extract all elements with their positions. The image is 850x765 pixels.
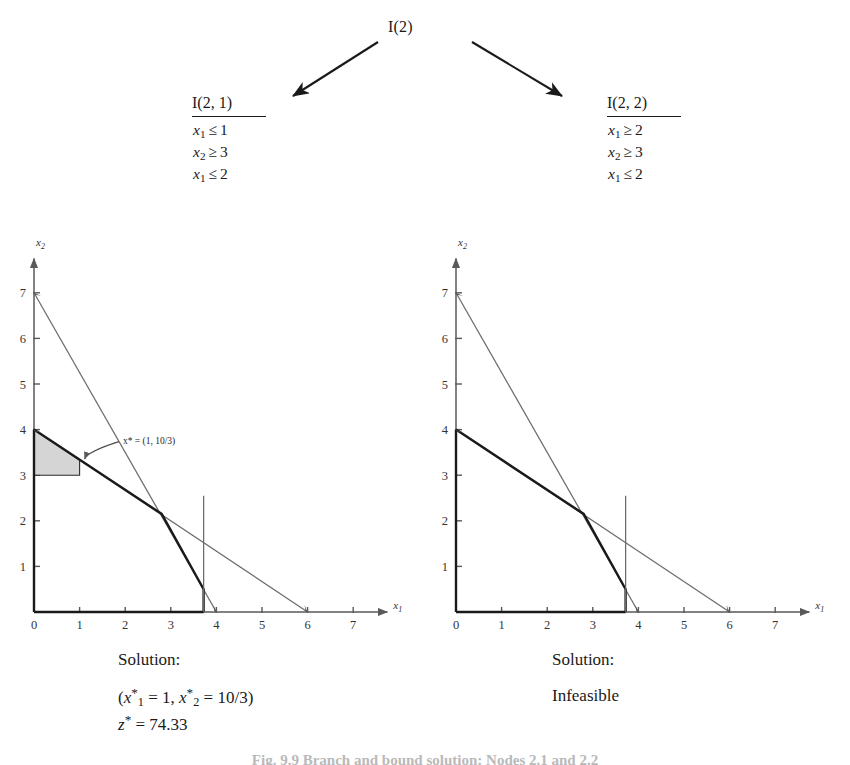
x-axis-label-sub: 1 (820, 605, 824, 614)
constraint-var: x (193, 121, 200, 138)
tree-node-left: I(2, 1) x1≤1 x2≥3 x1≤2 (192, 92, 312, 186)
y-tick-label: 2 (442, 514, 448, 528)
y-tick-label: 1 (442, 560, 448, 574)
tree-node-left-constraint-1: x1≤1 (192, 120, 312, 142)
x-tick-label: 6 (726, 618, 732, 632)
x-axis-label: x1 (814, 599, 824, 614)
constraint-value: 3 (220, 143, 228, 160)
tree-node-right: I(2, 2) x1≥2 x2≥3 x1≤2 (607, 92, 727, 186)
sol-z-var: z (118, 715, 125, 734)
tree-node-right-title: I(2, 2) (607, 92, 647, 115)
x-tick-label: 7 (350, 618, 356, 632)
x-tick-label: 6 (304, 618, 310, 632)
constraint-rel: ≥ (620, 143, 635, 160)
y-tick-label: 6 (20, 332, 26, 346)
optimum-label-leader (85, 442, 119, 459)
tree-node-left-title: I(2, 1) (192, 92, 232, 115)
tree-node-root: I(2) (388, 18, 413, 36)
y-axis-label-sub: 2 (463, 242, 467, 251)
constraint-rel: ≤ (205, 165, 220, 182)
tree-node-right-constraint-2: x2≥3 (607, 142, 727, 164)
solution-left-x2: 10/3 (217, 688, 247, 707)
solution-left: Solution: (x*1 = 1, x*2 = 10/3) z* = 74.… (118, 648, 253, 737)
chart-right: 012345671234567x2x1 (422, 228, 847, 636)
x-tick-label: 2 (122, 618, 128, 632)
sol-x2-sub: 2 (193, 695, 199, 709)
solution-right-label: Solution: (552, 648, 619, 672)
tree-node-left-rule (192, 116, 266, 117)
tree-edge-left (293, 42, 378, 96)
constraint-rel: ≥ (620, 121, 635, 138)
sol-x1-sub: 1 (138, 695, 144, 709)
y-tick-label: 4 (442, 423, 449, 437)
x-tick-label: 5 (259, 618, 265, 632)
y-tick-label: 7 (20, 286, 26, 300)
y-tick-label: 7 (442, 286, 448, 300)
x-tick-label: 4 (213, 618, 220, 632)
sol-x-var: x (179, 688, 187, 707)
constraint-rel: ≤ (620, 165, 635, 182)
x-tick-label: 0 (453, 618, 459, 632)
y-tick-label: 4 (20, 423, 27, 437)
tree-node-right-constraint-3: x1≤2 (607, 164, 727, 186)
tree-node-right-constraint-1: x1≥2 (607, 120, 727, 142)
constraint-var: x (608, 121, 615, 138)
solution-left-z: 74.33 (149, 715, 187, 734)
y-tick-label: 1 (20, 560, 26, 574)
y-axis-label: x2 (35, 236, 45, 251)
figure-page: I(2) I(2, 1) x1≤1 x2≥3 x1≤2 I(2, 2) x1≥2… (0, 0, 850, 765)
chart-right-canvas: 012345671234567x2x1 (422, 228, 847, 636)
x-tick-label: 5 (681, 618, 687, 632)
solution-left-line-1: (x*1 = 1, x*2 = 10/3) (118, 684, 253, 711)
y-axis-label-sub: 2 (41, 242, 45, 251)
constraint-rel: ≥ (205, 143, 220, 160)
x-tick-label: 2 (544, 618, 550, 632)
solution-right-status: Infeasible (552, 684, 619, 708)
constraint-var: x (608, 143, 615, 160)
x-tick-label: 1 (76, 618, 82, 632)
x-tick-label: 4 (635, 618, 642, 632)
tree-node-left-constraint-3: x1≤2 (192, 164, 312, 186)
y-axis-label: x2 (457, 236, 467, 251)
tree-node-left-constraint-2: x2≥3 (192, 142, 312, 164)
y-tick-label: 5 (20, 378, 26, 392)
y-tick-label: 5 (442, 378, 448, 392)
constraint-value: 2 (635, 121, 643, 138)
x-tick-label: 3 (590, 618, 596, 632)
x-tick-label: 3 (168, 618, 174, 632)
figure-caption: Fig. 9.9 Branch and bound solution: Node… (0, 752, 850, 765)
constraint-value: 2 (220, 165, 228, 182)
optimum-label: x* = (1, 10/3) (123, 436, 175, 447)
tree-edge-right (472, 42, 562, 96)
sol-star: * (125, 712, 132, 727)
constraint-var: x (193, 165, 200, 182)
x-axis-label: x1 (392, 599, 402, 614)
y-tick-label: 2 (20, 514, 26, 528)
y-tick-label: 3 (20, 469, 26, 483)
chart-left: 012345671234567x2x1x* = (1, 10/3) (0, 228, 425, 636)
x-tick-label: 7 (772, 618, 778, 632)
constraint-var: x (608, 165, 615, 182)
constraint-value: 1 (220, 121, 228, 138)
y-tick-label: 3 (442, 469, 448, 483)
sol-star: * (131, 685, 138, 700)
x-axis-label-sub: 1 (398, 605, 402, 614)
constraint-value: 2 (635, 165, 643, 182)
solution-left-x1: 1 (162, 688, 171, 707)
x-tick-label: 0 (31, 618, 37, 632)
feasible-region (34, 430, 80, 476)
solution-left-line-2: z* = 74.33 (118, 711, 253, 737)
constraint-value: 3 (635, 143, 643, 160)
constraint-var: x (193, 143, 200, 160)
solution-left-label: Solution: (118, 648, 253, 672)
constraint-rel: ≤ (205, 121, 220, 138)
solution-right: Solution: Infeasible (552, 648, 619, 708)
chart-left-canvas: 012345671234567x2x1x* = (1, 10/3) (0, 228, 425, 636)
series-boundary-bold (456, 430, 626, 612)
y-tick-label: 6 (442, 332, 448, 346)
tree-node-right-rule (607, 116, 681, 117)
x-tick-label: 1 (498, 618, 504, 632)
